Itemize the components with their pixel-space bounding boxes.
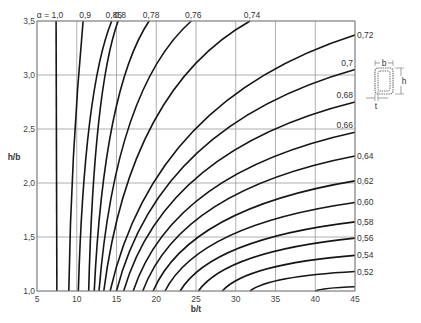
y-tick-label: 1,0 [23, 286, 35, 296]
alpha-curves [56, 21, 355, 291]
alpha-curve-0,74 [104, 21, 250, 291]
alpha-curve-0,50 [315, 287, 355, 291]
curve-label: 0,58 [357, 217, 374, 227]
alpha-curve-0,9 [69, 21, 83, 291]
alpha-curve-0,72 [110, 35, 355, 291]
curve-label: 0,66 [336, 120, 353, 130]
curve-label: 0,54 [357, 250, 374, 260]
x-tick-label: 5 [35, 294, 40, 304]
x-tick-label: 35 [271, 294, 281, 304]
curve-label: 0,52 [357, 267, 374, 277]
curve-label: 0,72 [357, 30, 374, 40]
alpha-curve-0,56 [198, 238, 355, 291]
curve-label: 0,76 [185, 10, 202, 20]
x-tick-label: 30 [231, 294, 241, 304]
x-tick-label: 15 [112, 294, 122, 304]
x-tick-label: 45 [350, 294, 360, 304]
y-tick-label: 2,0 [23, 178, 35, 188]
y-axis-ticks: 1,01,52,02,53,03,5 [23, 16, 35, 296]
dimension-label-b: b [382, 58, 387, 68]
grid [37, 21, 355, 291]
curve-label: 0,62 [357, 176, 374, 186]
y-axis-title: h/b [8, 152, 21, 162]
curve-label: 0,56 [357, 233, 374, 243]
x-axis-ticks: 51015202530354045 [35, 294, 360, 304]
curve-label: α = 1,0 [37, 10, 64, 20]
x-tick-label: 40 [311, 294, 321, 304]
curve-label: 0,78 [143, 10, 160, 20]
curve-label: 0,74 [244, 10, 261, 20]
x-tick-label: 10 [72, 294, 82, 304]
curve-label: 0,7 [341, 58, 353, 68]
dimension-label-h: h [402, 76, 407, 86]
alpha-curve-0,76 [99, 21, 191, 291]
y-tick-label: 3,5 [23, 16, 35, 26]
curve-label: 0,68 [336, 90, 353, 100]
x-tick-label: 25 [191, 294, 201, 304]
x-tick-label: 20 [152, 294, 162, 304]
y-tick-label: 1,5 [23, 232, 35, 242]
chart-canvas: 51015202530354045 1,01,52,02,53,03,5 α =… [0, 0, 421, 323]
alpha-curve-1,0 [56, 21, 57, 291]
curve-label: 0,9 [79, 10, 91, 20]
section-diagram: b h t [366, 58, 407, 111]
dimension-label-t: t [375, 101, 378, 111]
curve-label: 0,64 [357, 151, 374, 161]
curve-label: 0,60 [357, 197, 374, 207]
y-tick-label: 2,5 [23, 124, 35, 134]
curve-label: 0,8 [114, 10, 126, 20]
section-inner-outline [378, 71, 390, 91]
alpha-curve-0,60 [165, 202, 355, 291]
x-axis-title: b/t [191, 304, 202, 314]
y-tick-label: 3,0 [23, 70, 35, 80]
